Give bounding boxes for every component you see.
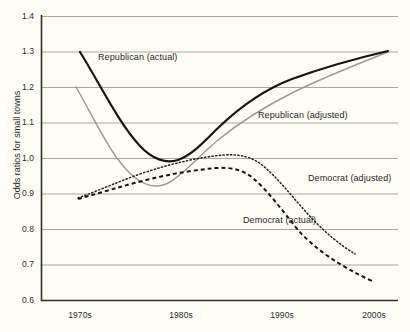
y-tick-label-1.3: 1.3 [8, 46, 34, 56]
x-tick-label-1990s: 1990s [257, 310, 307, 320]
series-label-republican-actual: Republican (actual) [98, 52, 177, 62]
series-line-democrat-actual [78, 168, 372, 281]
y-axis-title: Odds ratios for small towns [12, 75, 22, 215]
series-label-democrat-actual: Democrat (actual) [243, 215, 316, 225]
gridlines [41, 17, 398, 266]
x-tick-label-1970s: 1970s [55, 310, 105, 320]
series-line-democrat-adjusted [78, 155, 355, 254]
x-tick-label-1980s: 1980s [156, 310, 206, 320]
series-label-democrat-adjusted: Democrat (adjusted) [308, 173, 391, 183]
y-tick-label-1.4: 1.4 [8, 11, 34, 21]
y-tick-label-0.7: 0.7 [8, 259, 34, 269]
series-label-republican-adjusted: Republican (adjusted) [258, 110, 348, 120]
y-tick-label-0.6: 0.6 [8, 295, 34, 305]
x-tick-label-2000s: 2000s [349, 310, 399, 320]
plot-canvas [0, 0, 410, 332]
series-line-republican-actual [80, 51, 388, 161]
odds-ratio-line-chart: 1.4 1.3 1.2 1.1 1.0 0.9 0.8 0.7 0.6 1970… [0, 0, 410, 332]
y-tick-label-0.8: 0.8 [8, 224, 34, 234]
